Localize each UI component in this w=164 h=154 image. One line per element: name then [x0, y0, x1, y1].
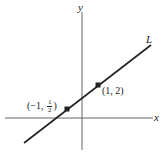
x-axis-label: x [154, 112, 159, 123]
line-L [24, 45, 151, 143]
point-label-suffix: ) [53, 100, 56, 111]
plot-canvas [0, 0, 164, 154]
point-label-prefix: (−1, [27, 100, 46, 111]
fraction-one-half: 12 [47, 99, 53, 114]
point-label-1-2: (1, 2) [102, 86, 124, 96]
point-label-neg1-half: (−1, 12) [27, 99, 57, 114]
point-1-2 [96, 83, 101, 88]
point-neg1-half [65, 107, 70, 112]
fraction-denominator: 2 [47, 107, 53, 114]
coordinate-plane-figure: y x L (−1, 12) (1, 2) [0, 0, 164, 154]
y-axis-label: y [78, 2, 83, 13]
line-L-label: L [146, 34, 152, 45]
